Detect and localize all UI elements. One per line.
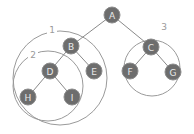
svg-text:2: 2 <box>30 50 36 60</box>
tree-node-b: B <box>63 38 79 54</box>
svg-text:H: H <box>25 93 32 103</box>
tree-node-d: D <box>42 63 58 79</box>
svg-text:B: B <box>68 42 74 52</box>
subtree-ring-2 <box>13 51 83 121</box>
subtree-label-2: 2 <box>28 49 38 61</box>
tree-node-h: H <box>20 89 36 105</box>
tree-nodes: ABCDEFGHI <box>20 7 181 105</box>
subtree-label-3: 3 <box>159 21 169 33</box>
tree-node-c: C <box>143 39 159 55</box>
svg-text:C: C <box>148 43 154 53</box>
tree-node-a: A <box>104 7 120 23</box>
svg-text:G: G <box>170 68 177 78</box>
tree-node-g: G <box>165 64 181 80</box>
svg-text:3: 3 <box>161 22 167 32</box>
svg-text:D: D <box>47 67 54 77</box>
svg-text:1: 1 <box>49 25 55 35</box>
svg-text:F: F <box>127 67 132 77</box>
subtree-label-1: 1 <box>47 24 57 36</box>
svg-text:I: I <box>71 93 74 103</box>
tree-node-e: E <box>86 63 102 79</box>
svg-text:A: A <box>109 11 116 21</box>
svg-text:E: E <box>91 67 97 77</box>
tree-diagram: 123 ABCDEFGHI <box>0 0 194 134</box>
tree-node-f: F <box>122 63 138 79</box>
tree-node-i: I <box>64 89 80 105</box>
